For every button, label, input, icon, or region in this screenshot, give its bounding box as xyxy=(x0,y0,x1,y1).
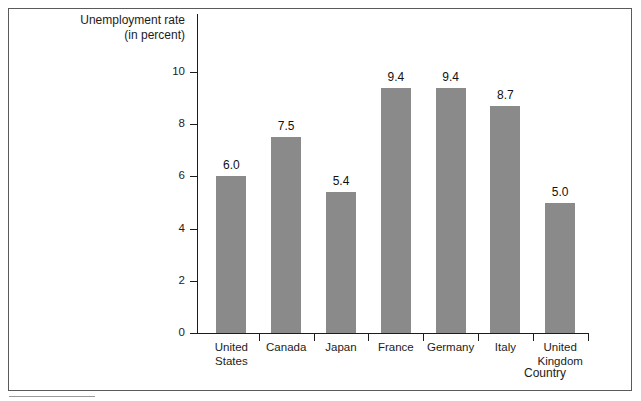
y-axis-title-line2: (in percent) xyxy=(35,28,185,43)
bar-value-france: 9.4 xyxy=(366,71,426,84)
x-axis-title: Country xyxy=(505,366,585,380)
x-tick-label-united-states: UnitedStates xyxy=(200,341,262,368)
y-axis-title: Unemployment rate (in percent) xyxy=(35,13,185,42)
y-tick-label-8: 8 xyxy=(145,118,185,129)
y-tick-4 xyxy=(190,229,197,230)
y-axis-line xyxy=(197,14,198,334)
x-tick-label-line1: Japan xyxy=(325,341,356,353)
bar-value-italy: 8.7 xyxy=(475,89,535,102)
x-tick-end xyxy=(588,334,589,341)
x-tick-1 xyxy=(259,334,260,341)
y-tick-0 xyxy=(190,333,197,334)
y-tick-8 xyxy=(190,124,197,125)
y-tick-2 xyxy=(190,281,197,282)
figure: Unemployment rate (in percent) 0246810 6… xyxy=(0,0,641,401)
x-tick-label-line1: Canada xyxy=(266,341,306,353)
bar-value-germany: 9.4 xyxy=(421,71,481,84)
y-tick-label-2: 2 xyxy=(145,275,185,286)
y-tick-label-6: 6 xyxy=(145,170,185,181)
bar-value-canada: 7.5 xyxy=(256,120,316,133)
x-tick-label-japan: Japan xyxy=(310,341,372,355)
x-tick-5 xyxy=(478,334,479,341)
bar-france xyxy=(381,88,411,333)
x-tick-label-germany: Germany xyxy=(420,341,482,355)
bar-united-states xyxy=(216,176,246,333)
x-tick-label-united-kingdom: UnitedKingdom xyxy=(529,341,591,368)
bar-canada xyxy=(271,137,301,333)
y-tick-label-4: 4 xyxy=(145,223,185,234)
bar-value-united-kingdom: 5.0 xyxy=(530,186,590,199)
bar-japan xyxy=(326,192,356,333)
bar-value-japan: 5.4 xyxy=(311,175,371,188)
plot-area: Unemployment rate (in percent) 0246810 6… xyxy=(0,0,641,401)
y-tick-label-0: 0 xyxy=(145,327,185,338)
x-tick-4 xyxy=(423,334,424,341)
x-tick-label-line2: Kingdom xyxy=(537,355,582,367)
y-tick-6 xyxy=(190,176,197,177)
x-tick-3 xyxy=(368,334,369,341)
x-tick-label-line1: France xyxy=(378,341,414,353)
x-tick-label-line1: Germany xyxy=(427,341,474,353)
x-tick-label-canada: Canada xyxy=(255,341,317,355)
x-tick-label-line1: United xyxy=(215,341,248,353)
x-tick-label-line2: States xyxy=(215,355,248,367)
x-tick-label-italy: Italy xyxy=(474,341,536,355)
x-tick-2 xyxy=(314,334,315,341)
bar-united-kingdom xyxy=(545,203,575,334)
x-tick-label-france: France xyxy=(365,341,427,355)
bar-italy xyxy=(490,106,520,333)
y-tick-label-10: 10 xyxy=(145,66,185,77)
x-axis-line xyxy=(197,333,589,334)
bar-germany xyxy=(436,88,466,333)
bar-value-united-states: 6.0 xyxy=(201,159,261,172)
y-axis-title-line1: Unemployment rate xyxy=(80,13,185,27)
y-tick-10 xyxy=(190,72,197,73)
x-tick-label-line1: United xyxy=(544,341,577,353)
x-tick-label-line1: Italy xyxy=(495,341,516,353)
x-tick-6 xyxy=(533,334,534,341)
